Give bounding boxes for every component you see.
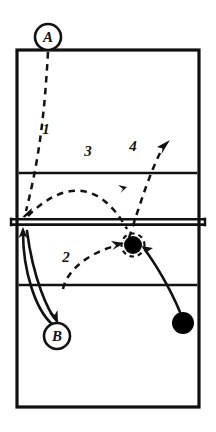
path-label-4: 4 <box>128 138 137 154</box>
path-label-3: 3 <box>83 143 92 159</box>
court-group <box>11 50 205 407</box>
ball-at-net[interactable] <box>124 236 142 254</box>
player-back-right[interactable] <box>172 312 194 334</box>
player-b[interactable]: B <box>44 323 70 349</box>
path-label-1: 1 <box>42 121 50 137</box>
player-a-label: A <box>42 29 53 45</box>
diagram-canvas: A B 1 2 3 4 <box>0 0 216 432</box>
volleyball-court-diagram: A B 1 2 3 4 <box>0 0 216 432</box>
player-a[interactable]: A <box>35 24 61 50</box>
player-b-label: B <box>51 328 62 344</box>
path-label-2: 2 <box>61 249 70 265</box>
